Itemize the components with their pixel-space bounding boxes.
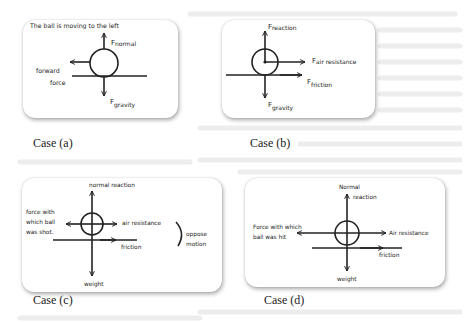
case-d-label-weight: weight <box>337 276 357 283</box>
case-d-label-friction: friction <box>379 252 400 258</box>
case-d-label-normal: Normal <box>339 184 360 190</box>
case-d-label-hit-1: Force with which <box>253 224 302 230</box>
case-c-label-normal-reaction: normal reaction <box>89 182 135 188</box>
case-a-label-normal: Fnormal <box>111 39 136 47</box>
case-c-label-weight: weight <box>84 281 104 288</box>
case-a-label-force: force <box>50 79 66 86</box>
case-c-label-shot-1: force with <box>26 209 55 215</box>
case-b-center-dot <box>263 60 266 63</box>
case-a-label-forward: forward <box>36 67 60 74</box>
case-c-label-motion: motion <box>186 241 207 247</box>
case-d-label-air-resistance: Air resistance <box>389 230 429 236</box>
case-b-label-gravity: Fgravity <box>268 101 294 112</box>
case-a-caption: Case (a) <box>33 136 73 151</box>
case-c-caption: Case (c) <box>33 293 73 308</box>
case-b-label-air-resistance: Fair resistance <box>312 57 357 65</box>
case-d-caption: Case (d) <box>264 293 304 308</box>
force-diagrams: The ball is moving to the left Fnormal F… <box>0 0 465 323</box>
case-b-label-friction: Ffriction <box>307 78 332 88</box>
case-b-label-reaction: Freaction <box>268 23 297 31</box>
case-b-diagram <box>226 31 305 98</box>
case-b-caption: Case (b) <box>250 136 290 151</box>
case-c-oppose-brace <box>176 222 182 246</box>
case-c-label-air-resistance: air resistance <box>122 220 162 226</box>
case-d-label-hit-2: ball was hit <box>253 234 287 240</box>
case-c-diagram <box>53 191 182 276</box>
case-c-label-shot-3: was shot. <box>26 229 54 235</box>
case-d-diagram <box>297 194 402 271</box>
case-a-label-gravity: Fgravity <box>110 98 136 109</box>
case-d-label-reaction: reaction <box>353 194 377 200</box>
case-c-label-oppose: oppose <box>186 231 207 238</box>
case-a-note: The ball is moving to the left <box>29 22 119 30</box>
case-c-label-friction: friction <box>121 244 142 250</box>
case-c-label-shot-2: which ball <box>26 219 56 225</box>
case-a-ball <box>90 49 118 77</box>
